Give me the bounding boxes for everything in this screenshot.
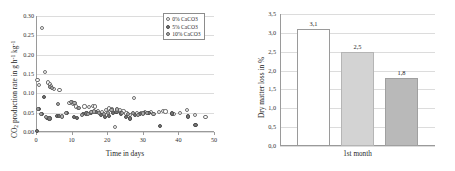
point-10-pct [77,106,81,110]
point-0-pct [203,115,207,119]
point-10-pct [136,113,140,117]
bar-2[interactable] [341,52,374,146]
figure-container: CO2 production rate in g h-1 kg-1 0.000.… [0,0,455,171]
bar-value-label-1: 3,1 [297,20,330,27]
point-0-pct [37,83,41,87]
left-chart-x-axis-line [36,131,214,132]
point-5-pct [47,116,51,120]
bar-value-label-2: 2,5 [341,43,374,50]
left-chart-x-tick-mark [214,132,215,135]
left-chart-x-tick: 30 [133,137,153,143]
left-chart-legend: 0% CaCO3 5% CaCO3 10% CaCO3 [163,13,205,40]
point-5-pct [42,95,46,99]
left-chart-x-tick-mark [143,132,144,135]
point-5-pct [128,116,132,120]
point-0-pct [178,111,182,115]
left-chart-gridline [36,74,214,75]
right-chart-y-tick: 2,0 [256,68,276,74]
point-0-pct [193,113,197,117]
right-chart-y-tick: 3,5 [256,11,276,17]
left-chart-x-tick-mark [107,132,108,135]
point-5-pct [170,111,174,115]
point-10-pct [145,111,149,115]
point-10-pct [151,112,155,116]
point-10-pct [60,114,64,118]
left-chart-x-tick: 10 [62,137,82,143]
y-axis-title-sup2: -1 [10,41,16,46]
chart-panel-dry-matter-loss: Dry matter loss in % 0,00,51,01,52,02,53… [228,0,455,171]
left-chart-gridline [36,93,214,94]
left-chart-x-axis-title: Time in days [36,150,214,158]
right-chart-y-tick: 2,5 [256,49,276,55]
point-5-pct [186,114,190,118]
point-5-pct [193,123,197,127]
left-chart-y-tick: 0.05 [14,110,34,116]
point-5-pct [158,124,162,128]
point-10-pct [120,111,124,115]
left-chart-y-tick: 0.00 [14,129,34,135]
right-chart-y-axis-line [280,14,281,146]
left-chart-x-tick: 50 [204,137,224,143]
right-chart-y-tick: 3,0 [256,30,276,36]
legend-label-5-pct: 5% CaCO3 [172,24,198,30]
left-chart-gridline [36,55,214,56]
chart-panel-co2-production: CO2 production rate in g h-1 kg-1 0.000.… [0,0,228,171]
legend-label-10-pct: 10% CaCO3 [172,31,200,37]
left-chart-x-tick: 40 [168,137,188,143]
point-10-pct [131,111,135,115]
right-chart-y-tick: 0,0 [256,143,276,149]
point-0-pct [40,26,44,30]
left-chart-y-axis-line [36,16,37,132]
right-chart-category-label: 1st month [280,150,435,158]
legend-label-0-pct: 0% CaCO3 [172,16,198,22]
right-chart-y-tick: 1,0 [256,105,276,111]
left-chart-x-tick: 0 [26,137,46,143]
left-chart-x-tick: 20 [97,137,117,143]
y-axis-title-sub: 2 [13,125,19,128]
right-chart-y-tick: 0,5 [256,124,276,130]
point-5-pct [75,116,79,120]
point-0-pct [93,104,97,108]
right-chart-gridline [280,14,435,15]
legend-marker-gray-circle-icon [166,32,170,36]
legend-item-10-pct[interactable]: 10% CaCO3 [166,31,201,37]
right-chart-plot-area [280,14,435,146]
left-chart-y-tick: 0.25 [14,32,34,38]
bar-value-label-3: 1,8 [385,69,418,76]
right-chart-y-tick: 1,5 [256,86,276,92]
point-10-pct [56,102,60,106]
point-0-pct [163,109,167,113]
point-10-pct [72,101,76,105]
point-0-pct [132,96,136,100]
left-chart-gridline [36,132,214,133]
legend-marker-filled-circle-icon [166,25,170,29]
left-chart-x-tick-mark [72,132,73,135]
left-chart-y-tick: 0.30 [14,13,34,19]
left-chart-y-tick: 0.10 [14,90,34,96]
left-chart-y-tick: 0.20 [14,52,34,58]
point-0-pct [57,88,61,92]
point-10-pct [115,107,119,111]
point-0-pct [113,125,117,129]
legend-marker-open-circle-icon [166,17,170,21]
point-10-pct [80,113,84,117]
left-chart-x-tick-mark [178,132,179,135]
right-chart-gridline [280,146,435,147]
bar-1[interactable] [297,29,330,146]
legend-item-5-pct[interactable]: 5% CaCO3 [166,24,201,30]
point-0-pct [82,104,86,108]
left-chart-y-tick: 0.15 [14,71,34,77]
legend-item-0-pct[interactable]: 0% CaCO3 [166,16,201,22]
point-0-pct [35,78,39,82]
bar-3[interactable] [385,78,418,146]
